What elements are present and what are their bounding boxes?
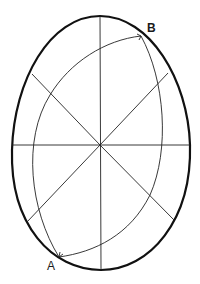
diagonal-lower-right-line [100, 145, 174, 220]
arrow-tick-b [137, 34, 141, 40]
inner-arc-right [59, 36, 162, 257]
inner-arc-left [33, 36, 141, 257]
vertical-axis-line [100, 16, 101, 270]
diagonal-lower-left-line [27, 145, 100, 222]
point-label-a: A [47, 260, 55, 272]
egg-diagram [0, 0, 200, 284]
point-label-b: B [147, 22, 156, 34]
